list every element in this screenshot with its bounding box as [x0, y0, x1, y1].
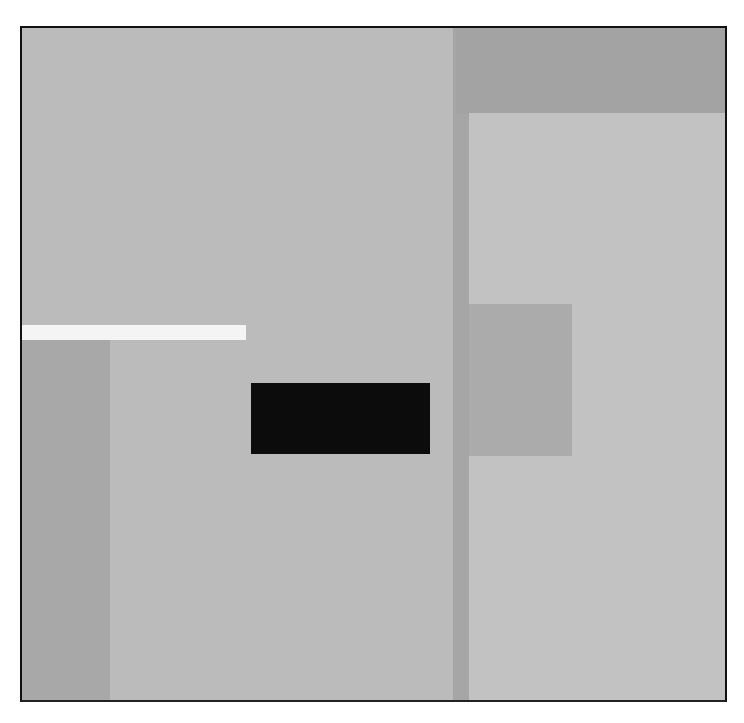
canvas-border [20, 26, 727, 702]
